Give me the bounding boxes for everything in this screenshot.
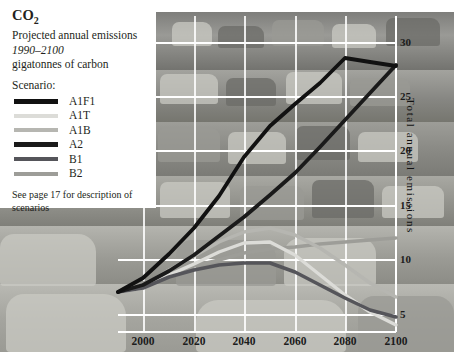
legend-label-b2: B2 [69,168,82,180]
legend-item-a1f1[interactable]: A1F1 [12,94,150,109]
gridline-x-2020 [194,16,196,332]
legend-item-a1t[interactable]: A1T [12,109,150,124]
axis-right [395,16,397,332]
x-tick-2040: 2040 [219,336,269,348]
gridline-y-25 [118,96,396,98]
x-tick-2020: 2020 [169,336,219,348]
figure-title-subscript: 2 [34,15,39,26]
co2-emissions-figure: 30 25 20 15 10 5 2000 2020 2040 2060 208… [0,0,454,363]
y-axis-title: Total annual emissions [405,98,417,284]
axis-bottom [118,331,396,333]
x-tick-2100: 2100 [371,336,421,348]
x-tick-2080: 2080 [320,336,370,348]
legend-label-b1: B1 [69,154,82,166]
y-tick-30: 30 [400,37,411,48]
gridline-y-15 [118,205,396,207]
legend-swatch-b1 [14,157,58,161]
scenario-heading: Scenario: [12,79,150,91]
legend-panel: CO2 Projected annual emissions 1990–2100… [0,0,156,208]
legend-item-b2[interactable]: B2 [12,167,150,182]
x-tick-2000: 2000 [118,336,168,348]
figure-units: gigatonnes of carbon [12,57,150,72]
legend-item-b1[interactable]: B1 [12,152,150,167]
legend-item-a2[interactable]: A2 [12,138,150,153]
legend-label-a2: A2 [69,139,83,151]
legend-label-a1t: A1T [69,110,90,122]
legend-swatch-a2 [14,142,58,147]
gridline-y-20 [118,150,396,152]
legend-label-a1f1: A1F1 [69,96,95,108]
figure-title: CO2 [12,8,150,26]
legend-swatch-a1f1 [14,99,58,104]
gridline-x-2060 [295,16,297,332]
legend-swatch-a1b [14,128,58,132]
legend-swatch-a1t [14,114,58,118]
figure-subtitle: Projected annual emissions [12,28,150,43]
gridline-y-5 [118,314,396,316]
scenario-note: See page 17 for description of scenarios [12,189,150,214]
x-tick-2060: 2060 [270,336,320,348]
legend-swatch-b2 [14,172,58,176]
legend-label-a1b: A1B [69,125,91,137]
figure-period: 1990–2100 [12,43,150,58]
gridline-x-2080 [345,16,347,332]
gridline-x-2040 [244,16,246,332]
figure-title-text: CO [12,7,34,23]
gridline-y-10 [118,259,396,261]
y-tick-5: 5 [400,309,406,320]
gridline-y-30 [118,42,396,44]
legend-item-a1b[interactable]: A1B [12,123,150,138]
